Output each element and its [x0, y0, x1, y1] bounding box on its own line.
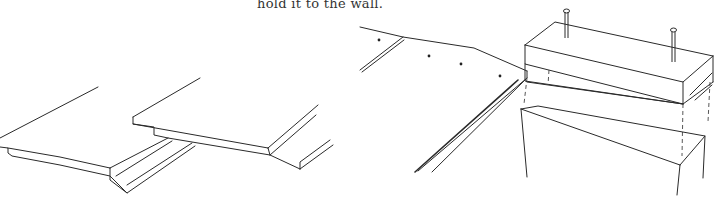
board-with-nail-holes: [360, 27, 527, 172]
upper-board: [133, 78, 333, 169]
wall-stud: [521, 106, 705, 195]
nailed-block: [525, 9, 713, 156]
nail-icon: [564, 9, 570, 38]
tongue-and-groove-boards-illustration: [0, 0, 719, 203]
nail-icon: [671, 28, 677, 62]
lower-board: [0, 87, 195, 193]
